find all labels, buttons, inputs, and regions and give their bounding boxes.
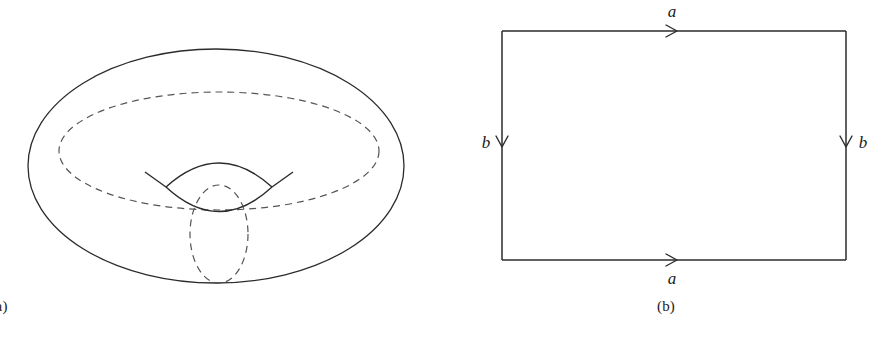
figure-root: (a) a a b b (b) [0,0,888,352]
top-edge-label: a [668,2,677,21]
caption-panel-b: (b) [444,298,888,315]
panel-torus: (a) [0,0,444,352]
hole-left-tail [145,172,166,187]
hole-upper-arc [166,163,272,187]
hole-right-tail [272,172,293,187]
inner-hidden-ellipse [59,92,379,210]
panel-fundamental-polygon: a a b b (b) [444,0,888,352]
outer-silhouette-ellipse [28,49,404,283]
caption-panel-a: (a) [0,298,221,315]
right-edge-label: b [859,133,868,152]
bottom-edge-label: a [668,269,677,288]
meridian-hidden-ellipse [190,185,248,283]
left-edge-label: b [482,133,491,152]
